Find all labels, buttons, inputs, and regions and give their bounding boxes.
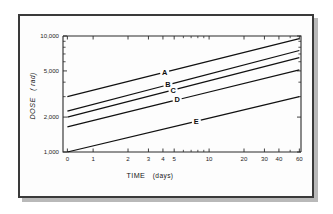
x-axis-title-main: TIME <box>127 171 146 180</box>
data-line-segment <box>67 101 172 127</box>
x-tick-label: 10 <box>206 155 213 162</box>
x-tick-label: 5 <box>172 155 176 162</box>
y-tick-label: 2,000 <box>44 113 60 120</box>
x-tick-label: 30 <box>261 155 268 162</box>
x-tick-label: 4 <box>161 155 165 162</box>
x-tick-label: 0 <box>66 155 70 162</box>
y-axis-title-main: DOSE <box>28 97 37 119</box>
y-axis-title-unit: ( rad) <box>29 72 37 90</box>
series-label-d: D <box>175 95 181 104</box>
x-tick-label: 3 <box>147 155 151 162</box>
series-label-c: C <box>170 86 176 95</box>
log-log-line-chart: 01234510203040601,0002,0005,00010,000 AB… <box>0 0 333 214</box>
data-line-segment <box>172 50 299 83</box>
x-tick-label: 2 <box>126 155 130 162</box>
plot-area-wrapper: 01234510203040601,0002,0005,00010,000 AB… <box>0 0 333 214</box>
x-tick-label: 40 <box>276 155 283 162</box>
x-tick-label: 60 <box>296 155 303 162</box>
ticks-group <box>63 36 301 152</box>
x-tick-label: 20 <box>241 155 248 162</box>
data-line-segment <box>67 122 191 152</box>
series-labels-group: ABCDE <box>162 68 199 126</box>
y-tick-label: 10,000 <box>40 32 59 39</box>
data-lines-group <box>67 39 299 152</box>
axes-group <box>63 36 301 152</box>
x-axis-title: TIME (days) <box>127 171 174 180</box>
data-line-segment <box>201 97 300 121</box>
y-tick-label: 5,000 <box>44 67 60 74</box>
x-axis-title-unit: (days) <box>153 172 174 180</box>
y-axis-title: DOSE ( rad) <box>28 72 37 119</box>
y-tick-label: 1,000 <box>44 148 60 155</box>
x-tick-label: 1 <box>91 155 95 162</box>
data-line-segment <box>67 73 160 96</box>
chart-figure: 01234510203040601,0002,0005,00010,000 AB… <box>0 0 333 214</box>
data-line-segment <box>169 39 299 72</box>
data-line-segment <box>182 70 300 99</box>
tick-labels-group: 01234510203040601,0002,0005,00010,000 <box>40 32 303 162</box>
series-label-e: E <box>194 117 199 126</box>
data-line-segment <box>67 91 168 117</box>
series-label-a: A <box>162 68 168 77</box>
